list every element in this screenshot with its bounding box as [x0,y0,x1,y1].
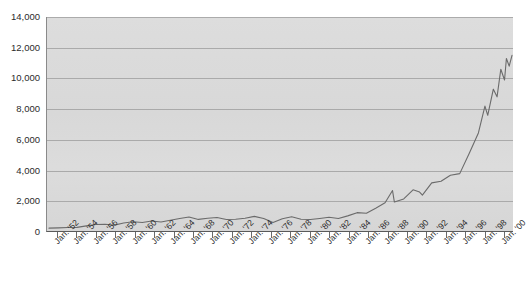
x-axis: Jan. '52Jan. '54Jan. '56Jan. '58Jan. '60… [46,232,513,286]
y-axis-tick-label: 8,000 [0,104,40,114]
y-axis-tick-label: 4,000 [0,166,40,176]
y-axis-tick-label: 0 [0,227,40,237]
y-axis-tick-label: 12,000 [0,43,40,53]
y-axis: 02,0004,0006,0008,00010,00012,00014,000 [0,0,46,250]
plot-area [46,17,513,232]
y-axis-tick-label: 10,000 [0,73,40,83]
y-axis-tick-label: 14,000 [0,12,40,22]
y-axis-tick-label: 2,000 [0,196,40,206]
data-series-line [47,17,513,232]
chart-container: 02,0004,0006,0008,00010,00012,00014,000 … [0,0,527,286]
y-axis-tick-label: 6,000 [0,135,40,145]
